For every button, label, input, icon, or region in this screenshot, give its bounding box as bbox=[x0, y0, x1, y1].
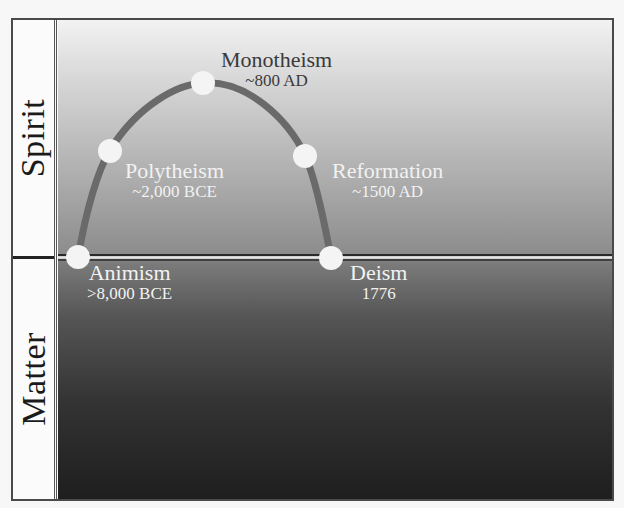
deism-name: Deism bbox=[350, 262, 407, 284]
matter-label-text: Matter bbox=[15, 332, 53, 426]
polytheism-date: ~2,000 BCE bbox=[125, 183, 224, 200]
monotheism-name: Monotheism bbox=[221, 49, 332, 71]
polytheism-name: Polytheism bbox=[125, 160, 224, 182]
diagram-frame: Spirit Matter Monotheism ~800 AD Pol bbox=[11, 18, 614, 501]
spirit-label: Spirit bbox=[13, 20, 54, 256]
column-divider bbox=[56, 20, 57, 499]
diagram-area: Monotheism ~800 AD Polytheism ~2,000 BCE… bbox=[58, 20, 612, 499]
spirit-label-text: Spirit bbox=[15, 99, 53, 178]
region-label-column: Spirit Matter bbox=[13, 20, 55, 499]
reformation-dot bbox=[293, 144, 317, 168]
polytheism-label: Polytheism ~2,000 BCE bbox=[125, 160, 224, 200]
animism-name: Animism bbox=[87, 262, 172, 284]
monotheism-label: Monotheism ~800 AD bbox=[221, 49, 332, 89]
reformation-date: ~1500 AD bbox=[332, 183, 443, 200]
monotheism-date: ~800 AD bbox=[221, 72, 332, 89]
reformation-label: Reformation ~1500 AD bbox=[332, 160, 443, 200]
matter-label: Matter bbox=[13, 259, 54, 499]
monotheism-dot bbox=[191, 71, 215, 95]
polytheism-dot bbox=[98, 139, 122, 163]
deism-label: Deism 1776 bbox=[350, 262, 407, 302]
deism-dot bbox=[319, 246, 343, 270]
animism-label: Animism >8,000 BCE bbox=[87, 262, 172, 302]
deism-date: 1776 bbox=[350, 285, 407, 302]
animism-date: >8,000 BCE bbox=[87, 285, 172, 302]
reformation-name: Reformation bbox=[332, 160, 443, 182]
